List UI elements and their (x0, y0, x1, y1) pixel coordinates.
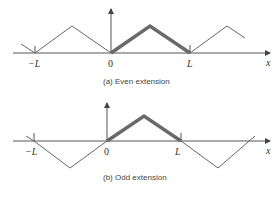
extension-diagram: −L 0 L x (a) Even extension −L 0 L x (b)… (0, 0, 280, 197)
panel-odd-extension: −L 0 L x (b) Odd extension (13, 103, 271, 182)
label-zero: 0 (108, 58, 113, 69)
label-neg-L: −L (25, 146, 38, 157)
even-extension-curve-right (190, 26, 245, 53)
label-zero: 0 (104, 146, 109, 157)
label-L: L (186, 58, 193, 69)
caption-even: (a) Even extension (103, 77, 170, 86)
label-L: L (174, 146, 181, 157)
original-function (107, 116, 181, 141)
label-x: x (265, 57, 271, 68)
original-function (111, 26, 190, 53)
label-neg-L: −L (28, 58, 41, 69)
label-x: x (265, 145, 271, 156)
caption-odd: (b) Odd extension (103, 173, 167, 182)
panel-even-extension: −L 0 L x (a) Even extension (13, 9, 271, 86)
